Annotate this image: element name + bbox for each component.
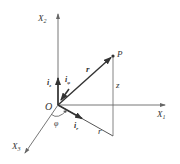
x2-axis: X2 <box>37 13 58 105</box>
x3-axis: X3 <box>11 105 58 153</box>
x1-axis-label: X1 <box>156 109 166 120</box>
point-p <box>111 54 114 57</box>
point-p-label: P <box>116 49 123 59</box>
unit-vector-ir-label: ir <box>74 121 78 131</box>
unit-vector-iz-label: iz <box>47 78 51 88</box>
x3-axis-label: X3 <box>11 141 21 152</box>
angle-phi-label: φ <box>54 119 59 128</box>
unit-vector-ir <box>58 105 82 119</box>
x1-axis: X1 <box>58 105 166 120</box>
radial-projection-label: r <box>98 126 102 136</box>
cylindrical-coordinates-diagram: X2 X1 X3 r z r P iz iφ ir φ <box>0 0 180 164</box>
origin-label: O <box>45 101 52 112</box>
position-vector-label: r <box>86 64 90 74</box>
height-label: z <box>115 80 120 90</box>
unit-vector-iphi-label: iφ <box>65 75 70 85</box>
x2-axis-label: X2 <box>37 13 47 24</box>
